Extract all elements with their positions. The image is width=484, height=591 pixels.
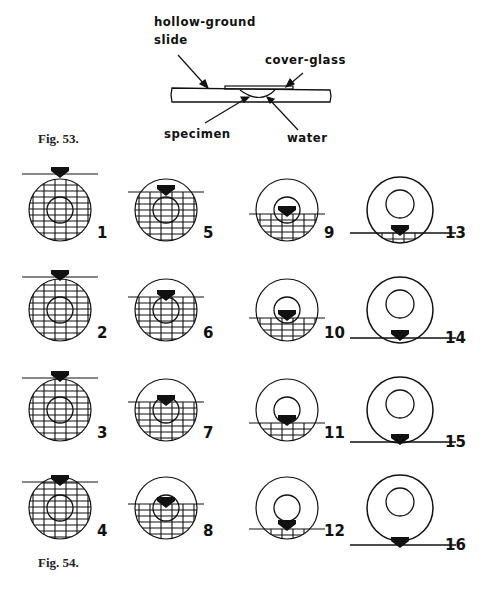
panel-number: 13 [445,224,466,242]
panel-number: 9 [324,224,334,242]
panel-number: 15 [445,433,466,451]
panel-number: 1 [97,224,107,242]
panel-number: 11 [324,424,345,442]
inner-circle [386,290,414,318]
focus-panels [0,0,484,591]
inner-circle [47,397,73,423]
fig54-caption: Fig. 54. [38,555,79,571]
outer-circle [256,379,318,441]
panel-number: 12 [324,522,345,540]
inner-circle [386,390,414,418]
inner-circle [47,197,73,223]
inner-circle [47,297,73,323]
panel-number: 6 [203,324,213,342]
panel-number: 14 [445,329,466,347]
outer-circle [367,377,433,443]
panel-number: 2 [97,324,107,342]
panel-number: 16 [445,536,466,554]
panel-number: 3 [97,424,107,442]
outer-circle [29,477,91,539]
panel-number: 4 [97,522,107,540]
inner-circle [386,488,414,516]
panel-number: 10 [324,324,345,342]
outer-circle [367,475,433,541]
panel-number: 8 [203,522,213,540]
inner-circle [274,495,300,521]
inner-circle [386,190,414,218]
outer-circle [29,179,91,241]
panel-number: 7 [203,424,213,442]
outer-circle [135,279,197,341]
panel-number: 5 [203,224,213,242]
outer-circle [29,379,91,441]
outer-circle [29,279,91,341]
inner-circle [47,495,73,521]
